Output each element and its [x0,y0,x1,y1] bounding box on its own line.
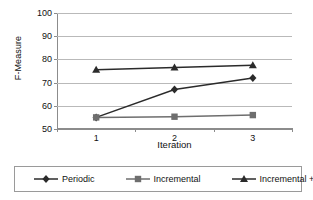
y-tick-label: 50 [42,124,52,134]
x-tick-mark [292,128,293,132]
y-tick-label: 70 [42,78,52,88]
y-tick-label: 100 [37,8,52,18]
diamond-marker-icon [33,173,59,185]
legend-label: Incremental + RI [260,174,313,184]
series-incremental-ri [92,61,257,73]
square-marker-icon [93,114,99,120]
plot-area: 5060708090100 123 [57,13,292,129]
square-marker-icon [171,114,177,120]
legend-label: Periodic [62,174,95,184]
diamond-marker-icon [171,86,178,94]
triangle-marker-icon [231,173,257,185]
y-axis-title: F-Measure [13,12,23,104]
legend-item-incremental[interactable]: Incremental [125,173,201,185]
series-incremental [93,112,256,121]
legend-label: Incremental [154,174,201,184]
square-marker-icon [134,176,140,182]
square-marker-icon [125,173,151,185]
chart-legend: PeriodicIncrementalIncremental + RI [14,166,302,192]
y-tick-label: 60 [42,101,52,111]
square-marker-icon [250,112,256,118]
gridline [57,129,292,130]
legend-item-periodic[interactable]: Periodic [33,173,95,185]
y-tick-label: 80 [42,54,52,64]
diamond-marker-icon [249,74,256,82]
line-chart: F-Measure 5060708090100 123 Iteration Pe… [0,0,313,200]
series-line [96,78,253,117]
legend-item-incremental-ri[interactable]: Incremental + RI [231,173,313,185]
data-series-layer [57,13,292,129]
y-tick-label: 90 [42,31,52,41]
diamond-marker-icon [42,175,49,183]
x-axis-title: Iteration [57,139,292,150]
